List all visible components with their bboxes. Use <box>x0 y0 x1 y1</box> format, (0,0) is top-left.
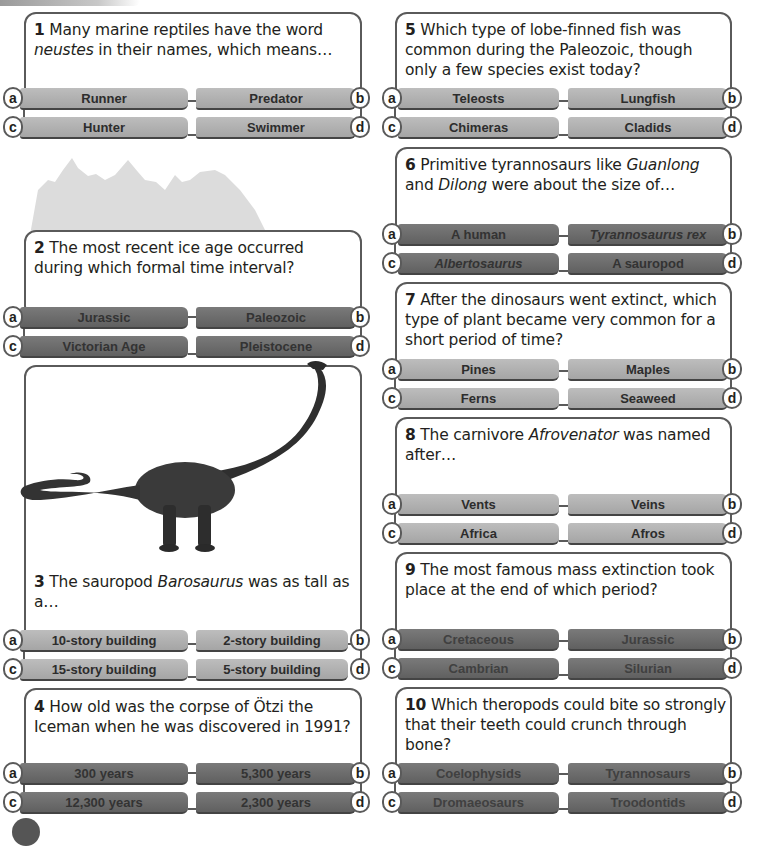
question-text-3: 3 The sauropod Barosaurus was as tall as… <box>34 572 354 612</box>
answer-option-d[interactable]: Seaweed <box>568 388 728 410</box>
question-text-9: 9 The most famous mass extinction took p… <box>405 560 725 600</box>
answer-option-b[interactable]: Maples <box>568 359 728 381</box>
answer-row: c Cambrian Silurian d <box>380 658 750 680</box>
question-number: 6 <box>405 156 416 174</box>
answer-option-c[interactable]: Ferns <box>398 388 559 410</box>
letter-badge-a: a <box>3 87 23 109</box>
answer-option-c[interactable]: 12,300 years <box>20 792 188 814</box>
letter-badge-d: d <box>350 335 370 357</box>
letter-badge-d: d <box>350 791 370 813</box>
letter-badge-c: c <box>382 387 402 409</box>
answer-row: c Hunter Swimmer d <box>0 117 372 139</box>
answer-option-c[interactable]: Africa <box>398 523 559 545</box>
answer-option-a[interactable]: Teleosts <box>398 88 559 110</box>
letter-badge-d: d <box>350 658 370 680</box>
letter-badge-d: d <box>722 387 742 409</box>
answer-option-d[interactable]: Silurian <box>568 658 728 680</box>
answer-option-b[interactable]: Predator <box>196 88 356 110</box>
answer-option-c[interactable]: Hunter <box>20 117 188 139</box>
letter-badge-d: d <box>350 116 370 138</box>
answer-option-a[interactable]: Pines <box>398 359 559 381</box>
letter-badge-b: b <box>722 762 742 784</box>
answer-option-b[interactable]: Paleozoic <box>196 307 356 329</box>
answer-option-c[interactable]: 15-story building <box>20 659 188 681</box>
answer-option-d[interactable]: Cladids <box>568 117 728 139</box>
answer-row: c Chimeras Cladids d <box>380 117 750 139</box>
answer-row: c Victorian Age Pleistocene d <box>0 336 372 358</box>
answer-option-b[interactable]: Lungfish <box>568 88 728 110</box>
letter-badge-b: b <box>722 223 742 245</box>
answer-option-c[interactable]: Victorian Age <box>20 336 188 358</box>
letter-badge-c: c <box>3 116 23 138</box>
question-text-5: 5 Which type of lobe-finned fish was com… <box>405 20 725 80</box>
letter-badge-a: a <box>3 306 23 328</box>
letter-badge-d: d <box>722 522 742 544</box>
answer-option-a[interactable]: Runner <box>20 88 188 110</box>
question-number: 9 <box>405 561 416 579</box>
answer-option-a[interactable]: Vents <box>398 494 559 516</box>
letter-badge-d: d <box>722 252 742 274</box>
answer-row: a Runner Predator b <box>0 88 372 110</box>
top-edge-shade <box>0 0 140 6</box>
answer-option-a[interactable]: Jurassic <box>20 307 188 329</box>
answer-option-a[interactable]: Coelophysids <box>398 763 559 785</box>
answer-row: c Dromaeosaurs Troodontids d <box>380 792 750 814</box>
answer-option-d[interactable]: Pleistocene <box>196 336 356 358</box>
answer-option-d[interactable]: Afros <box>568 523 728 545</box>
letter-badge-c: c <box>382 657 402 679</box>
answer-row: a Coelophysids Tyrannosaurs b <box>380 763 750 785</box>
answer-option-a[interactable]: A human <box>398 224 559 246</box>
answer-option-b[interactable]: Jurassic <box>568 629 728 651</box>
letter-badge-a: a <box>382 87 402 109</box>
answer-option-c[interactable]: Chimeras <box>398 117 559 139</box>
answer-option-a[interactable]: Cretaceous <box>398 629 559 651</box>
letter-badge-c: c <box>3 658 23 680</box>
answer-row: c Africa Afros d <box>380 523 750 545</box>
letter-badge-c: c <box>382 791 402 813</box>
letter-badge-d: d <box>722 791 742 813</box>
letter-badge-a: a <box>3 762 23 784</box>
letter-badge-b: b <box>350 629 370 651</box>
letter-badge-b: b <box>722 358 742 380</box>
barosaurus-illustration <box>15 360 335 555</box>
answer-row: a Vents Veins b <box>380 494 750 516</box>
question-text-4: 4 How old was the corpse of Ötzi the Ice… <box>34 697 354 737</box>
question-text-1: 1 Many marine reptiles have the word neu… <box>34 20 354 60</box>
answer-option-b[interactable]: 5,300 years <box>196 763 356 785</box>
question-number: 8 <box>405 426 416 444</box>
answer-option-c[interactable]: Dromaeosaurs <box>398 792 559 814</box>
answer-option-d[interactable]: 2,300 years <box>196 792 356 814</box>
letter-badge-b: b <box>350 762 370 784</box>
letter-badge-c: c <box>3 791 23 813</box>
answer-row: c 15-story building 5-story building d <box>0 659 372 681</box>
letter-badge-a: a <box>382 762 402 784</box>
letter-badge-d: d <box>722 657 742 679</box>
question-text-6: 6 Primitive tyrannosaurs like Guanlong a… <box>405 155 725 195</box>
letter-badge-b: b <box>350 87 370 109</box>
answer-option-c[interactable]: Albertosaurus <box>398 253 559 275</box>
letter-badge-b: b <box>722 628 742 650</box>
letter-badge-b: b <box>350 306 370 328</box>
answer-option-d[interactable]: Swimmer <box>196 117 356 139</box>
question-number: 5 <box>405 21 416 39</box>
answer-row: c Albertosaurus A sauropod d <box>380 253 750 275</box>
mountain-silhouette <box>30 150 275 235</box>
answer-option-a[interactable]: 300 years <box>20 763 188 785</box>
answer-option-d[interactable]: A sauropod <box>568 253 728 275</box>
question-text-10: 10 Which theropods could bite so strongl… <box>405 695 727 755</box>
letter-badge-a: a <box>3 629 23 651</box>
answer-option-b[interactable]: Tyrannosaurus rex <box>568 224 728 246</box>
letter-badge-b: b <box>722 87 742 109</box>
answer-option-d[interactable]: Troodontids <box>568 792 728 814</box>
answer-row: a 300 years 5,300 years b <box>0 763 372 785</box>
letter-badge-a: a <box>382 628 402 650</box>
answer-option-d[interactable]: 5-story building <box>196 659 348 681</box>
answer-option-c[interactable]: Cambrian <box>398 658 559 680</box>
letter-badge-a: a <box>382 223 402 245</box>
answer-row: a Jurassic Paleozoic b <box>0 307 372 329</box>
letter-badge-c: c <box>382 522 402 544</box>
answer-option-b[interactable]: 2-story building <box>196 630 348 652</box>
answer-option-a[interactable]: 10-story building <box>20 630 188 652</box>
answer-option-b[interactable]: Veins <box>568 494 728 516</box>
answer-option-b[interactable]: Tyrannosaurs <box>568 763 728 785</box>
